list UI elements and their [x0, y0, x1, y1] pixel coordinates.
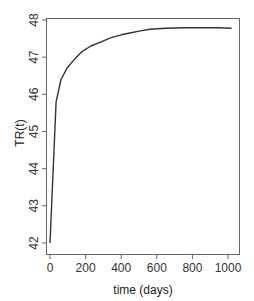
tr-curve — [50, 28, 232, 243]
x-tick-label: 600 — [147, 261, 167, 275]
y-axis: 42434445464748 — [27, 13, 47, 250]
x-tick-label: 800 — [182, 261, 202, 275]
x-tick-label: 1000 — [215, 261, 242, 275]
y-tick-label: 42 — [27, 236, 41, 250]
y-tick-label: 46 — [27, 87, 41, 101]
y-tick-label: 45 — [27, 124, 41, 138]
x-tick-label: 200 — [76, 261, 96, 275]
y-tick-label: 43 — [27, 199, 41, 213]
plot-frame — [47, 19, 240, 255]
y-tick-label: 47 — [27, 50, 41, 64]
y-tick-label: 44 — [27, 162, 41, 176]
y-axis-title: TR(t) — [13, 119, 27, 146]
line-chart: 42434445464748 02004006008001000 time (d… — [0, 0, 254, 301]
x-axis: 02004006008001000 — [47, 255, 242, 276]
x-axis-title: time (days) — [113, 283, 172, 297]
y-tick-label: 48 — [27, 13, 41, 27]
x-tick-label: 0 — [47, 261, 54, 275]
x-tick-label: 400 — [111, 261, 131, 275]
